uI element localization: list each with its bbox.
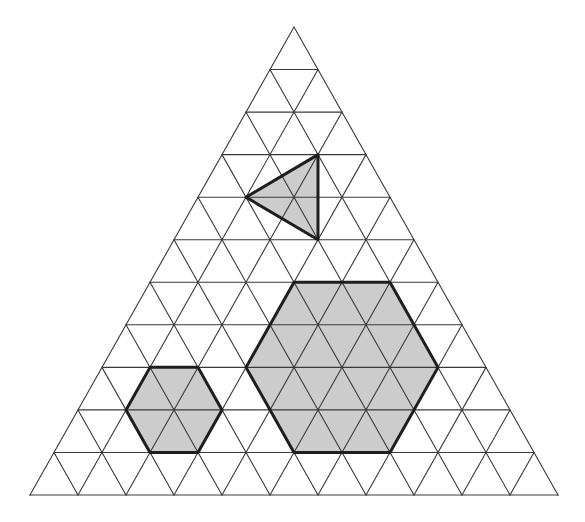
triangular-grid-diagram (0, 0, 585, 522)
